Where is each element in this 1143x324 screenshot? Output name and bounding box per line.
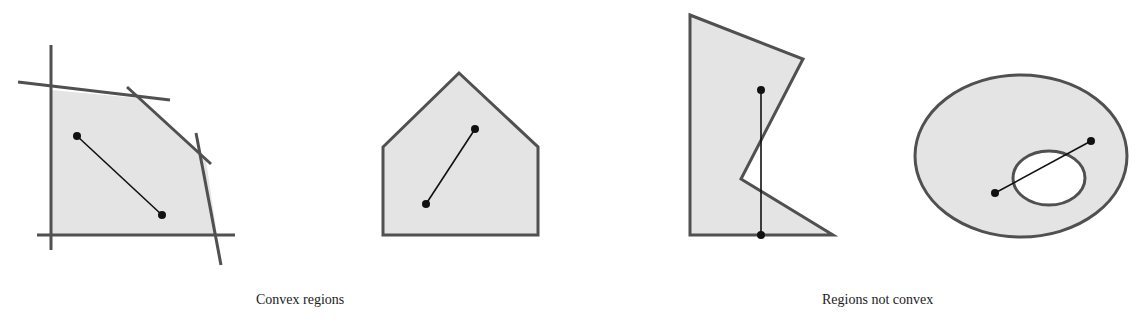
diagram-figures: [0, 0, 1143, 324]
point-dot: [757, 86, 765, 94]
point-dot: [471, 125, 479, 133]
figure-notched-polygon: [690, 15, 833, 239]
region-shape: [51, 90, 217, 235]
point-dot: [991, 189, 999, 197]
figure-half-plane-intersection: [18, 45, 235, 265]
point-dot: [1087, 137, 1095, 145]
caption-convex-regions: Convex regions: [256, 292, 344, 308]
caption-regions-not-convex: Regions not convex: [822, 292, 933, 308]
convexity-diagram: Convex regions Regions not convex: [0, 0, 1143, 324]
figure-ring: [915, 75, 1127, 237]
figure-pentagon: [383, 73, 538, 235]
outer-ellipse: [915, 75, 1127, 237]
point-dot: [73, 132, 81, 140]
point-dot: [422, 200, 430, 208]
point-dot: [158, 211, 166, 219]
point-dot: [757, 231, 765, 239]
region-shape: [383, 73, 538, 235]
